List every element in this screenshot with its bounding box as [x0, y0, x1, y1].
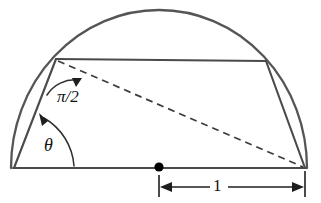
geometry-figure: π/2 θ 1 — [0, 0, 321, 203]
right-angle-label: π/2 — [57, 88, 79, 105]
dimension-label: 1 — [213, 177, 222, 194]
center-point-dot — [154, 162, 163, 171]
dimension-arrowhead-right — [292, 182, 304, 192]
dimension-arrowhead-left — [160, 182, 172, 192]
top-chord-segment — [56, 59, 266, 61]
dashed-chord-segment — [58, 61, 303, 167]
theta-angle-label: θ — [44, 136, 53, 154]
semicircle-arc — [11, 10, 307, 168]
figure-canvas — [0, 0, 321, 203]
right-angle-arrowhead — [72, 78, 82, 87]
